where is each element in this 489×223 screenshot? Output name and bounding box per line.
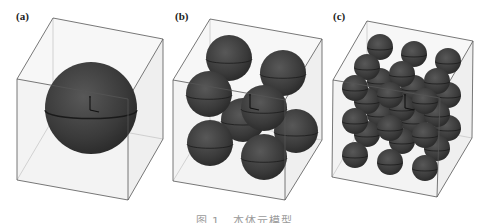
sphere-body	[241, 85, 287, 131]
axis-tip	[249, 94, 251, 96]
sphere	[342, 75, 368, 101]
sphere	[241, 85, 287, 131]
panel-c-twenty-seven-spheres	[332, 21, 473, 197]
sphere-body	[412, 155, 438, 181]
sphere	[187, 120, 233, 166]
sphere	[342, 108, 368, 134]
panel-label-b: (b)	[175, 10, 188, 22]
sphere-body	[412, 122, 438, 148]
sphere	[377, 115, 403, 141]
sphere-body	[187, 120, 233, 166]
sphere-body	[377, 115, 403, 141]
sphere-body	[45, 62, 137, 154]
sphere	[342, 142, 368, 168]
sphere-body	[342, 108, 368, 134]
figure-caption: 图 1 本体元模型	[0, 212, 489, 223]
sphere	[45, 62, 137, 154]
figure: (a) (b) (c) 图 1 本体元模型	[0, 0, 489, 223]
sphere-body	[377, 149, 403, 175]
sphere-body	[342, 75, 368, 101]
axis-tip	[404, 94, 406, 96]
axis-tip	[89, 96, 91, 98]
sphere	[412, 88, 438, 114]
sphere	[186, 71, 232, 117]
sphere	[412, 122, 438, 148]
sphere	[412, 155, 438, 181]
sphere-body	[186, 71, 232, 117]
sphere-body	[412, 88, 438, 114]
panel-label-c: (c)	[333, 10, 345, 22]
sphere	[377, 149, 403, 175]
panel-b-eight-spheres	[173, 19, 322, 200]
sphere	[377, 82, 403, 108]
sphere-body	[241, 134, 287, 180]
panel-a-single-sphere	[17, 18, 163, 200]
panel-label-a: (a)	[16, 10, 29, 22]
figure-canvas	[0, 0, 489, 223]
sphere-body	[342, 142, 368, 168]
sphere-body	[377, 82, 403, 108]
sphere	[241, 134, 287, 180]
